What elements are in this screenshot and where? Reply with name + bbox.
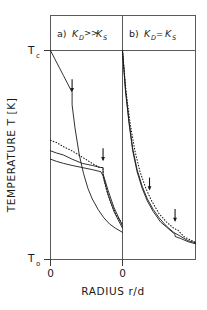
panel-b-cond-first: K [144,28,151,39]
panel-b-prefix: b) [129,28,139,39]
annotation-arrows [70,79,177,222]
y-tick-top: T c [27,44,40,60]
arrow-marker-2 [101,148,105,161]
panel-b-cond-second-sub: S [172,34,176,42]
y-tick-bottom-subscript: o [36,260,40,268]
y-tick-bottom-label: T [27,252,35,264]
panel-a-cond-first: K [72,28,79,39]
x-tick-left-label: 0 [47,267,54,279]
panel-a-cond-second: K [96,28,103,39]
x-tick-center-label: 0 [119,267,126,279]
curve-a-low-power-solid-lower [51,159,123,228]
y-tick-top-label: T [27,44,35,56]
curve-b-dotted-reference [123,51,196,243]
y-tick-bottom: T o [27,252,40,268]
x-axis-title: RADIUS r/d [81,285,144,297]
arrow-marker-3 [148,178,152,191]
panel-b-cond-second: K [165,28,172,39]
y-tick-top-subscript: c [36,52,40,60]
curve-b-low-power-solid [123,51,196,244]
curve-a-low-power-solid-upper [51,151,123,226]
panel-a-prefix: a) [57,28,67,39]
y-axis-title: TEMPERATURE T [K] [5,98,17,214]
panel-b-label: b) K D = K S [129,28,176,42]
arrow-marker-4 [173,209,177,222]
panel-a-cond-second-sub: S [103,34,107,42]
panel-b-cond-rel: = [156,29,163,39]
chart-svg: TEMPERATURE T [K] T c T o 0 0 RADIUS r/d… [0,0,207,310]
chart-figure: TEMPERATURE T [K] T c T o 0 0 RADIUS r/d… [0,0,207,310]
panel-a-label: a) K D >> K S [57,28,107,42]
